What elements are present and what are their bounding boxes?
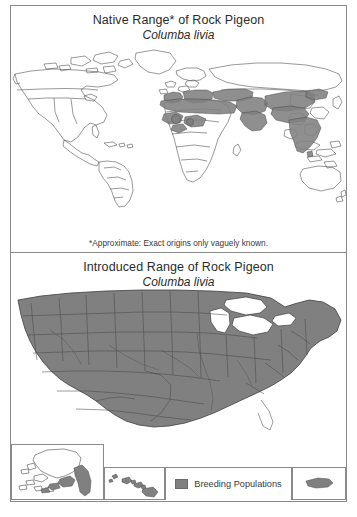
inset-puerto-rico xyxy=(292,467,346,500)
hawaii-map-svg xyxy=(105,468,164,499)
alaska-map-svg xyxy=(12,445,103,499)
world-map xyxy=(11,44,346,209)
puerto-rico-breeding-fill xyxy=(306,478,333,488)
inset-alaska xyxy=(11,444,104,500)
legend: Breeding Populations xyxy=(165,467,292,500)
legend-label-breeding-populations: Breeding Populations xyxy=(194,479,281,489)
introduced-map-title: Introduced Range of Rock Pigeon xyxy=(11,260,346,275)
native-title-block: Native Range* of Rock Pigeon Columba liv… xyxy=(11,6,346,43)
native-scientific-name: Columba livia xyxy=(11,28,346,43)
native-map-title: Native Range* of Rock Pigeon xyxy=(11,13,346,28)
range-map-figure: Native Range* of Rock Pigeon Columba liv… xyxy=(10,5,347,502)
puerto-rico-map-svg xyxy=(293,468,345,499)
legend-swatch-breeding-populations xyxy=(175,479,188,489)
native-range-footnote: *Approximate: Exact origins only vaguely… xyxy=(11,238,346,248)
world-map-svg xyxy=(11,44,346,209)
usa-map-svg xyxy=(11,285,346,445)
usa-breeding-fill xyxy=(18,290,341,427)
inset-hawaii xyxy=(104,467,165,500)
hawaii-breeding-fill xyxy=(109,474,158,497)
native-range-shading xyxy=(160,89,328,157)
usa-map xyxy=(11,285,346,445)
panel-native-range: Native Range* of Rock Pigeon Columba liv… xyxy=(11,6,346,253)
panel-introduced-range: Introduced Range of Rock Pigeon Columba … xyxy=(11,253,346,501)
